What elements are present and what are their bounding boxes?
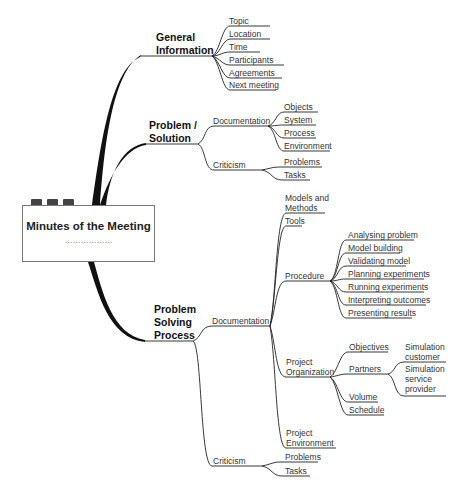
branch-label-line: Problem	[154, 303, 196, 316]
node-project-organization[interactable]: Project Organization	[286, 357, 334, 377]
node-label-line: customer	[405, 352, 445, 362]
node-label-line: Organization	[286, 367, 334, 377]
branch-label-line: Information	[156, 44, 214, 57]
node-presenting-results[interactable]: Presenting results	[348, 308, 416, 318]
node-label-line: Simulation	[405, 342, 445, 352]
node-label-line: Simulation	[405, 364, 445, 374]
node-participants[interactable]: Participants	[229, 55, 273, 65]
node-agreements[interactable]: Agreements	[229, 68, 275, 78]
node-documentation[interactable]: Documentation	[213, 116, 270, 126]
root-placeholder: ………………	[23, 236, 154, 245]
node-time[interactable]: Time	[229, 42, 248, 52]
node-project-environment[interactable]: Project Environment	[286, 428, 334, 448]
node-interpreting-outcomes[interactable]: Interpreting outcomes	[348, 295, 430, 305]
node-problems[interactable]: Problems	[285, 452, 321, 462]
node-label-line: Methods	[285, 203, 329, 213]
node-label-line: service	[405, 374, 445, 384]
node-process[interactable]: Process	[284, 128, 315, 138]
node-documentation[interactable]: Documentation	[212, 316, 269, 326]
branch-label-line: General	[156, 31, 214, 44]
node-partners[interactable]: Partners	[349, 364, 381, 374]
node-label-line: provider	[405, 384, 445, 394]
branch-label-line: Solution	[149, 132, 197, 145]
mind-map: Minutes of the Meeting ……………… General In…	[0, 0, 461, 498]
node-problems[interactable]: Problems	[284, 157, 320, 167]
root-title: Minutes of the Meeting	[23, 220, 154, 232]
node-location[interactable]: Location	[229, 29, 261, 39]
branch-label-line: Process	[154, 329, 196, 342]
node-tools[interactable]: Tools	[285, 216, 305, 226]
branch-label-line: Solving	[154, 316, 196, 329]
node-simulation-service-provider[interactable]: Simulation service provider	[405, 364, 445, 394]
node-schedule[interactable]: Schedule	[349, 405, 384, 415]
branch-problem-solving-process[interactable]: Problem Solving Process	[154, 303, 196, 342]
node-label-line: Project	[286, 428, 334, 438]
node-model-building[interactable]: Model building	[348, 243, 403, 253]
node-analysing-problem[interactable]: Analysing problem	[348, 230, 418, 240]
node-planning-experiments[interactable]: Planning experiments	[348, 269, 430, 279]
node-validating-model[interactable]: Validating model	[348, 256, 410, 266]
node-volume[interactable]: Volume	[349, 392, 377, 402]
branch-label-line: Problem /	[149, 119, 197, 132]
node-running-experiments[interactable]: Running experiments	[348, 282, 428, 292]
node-environment[interactable]: Environment	[284, 141, 332, 151]
node-procedure[interactable]: Procedure	[285, 271, 324, 281]
node-objectives[interactable]: Objectives	[349, 342, 389, 352]
branch-general-information[interactable]: General Information	[156, 31, 214, 57]
root-node[interactable]: Minutes of the Meeting ………………	[22, 205, 155, 262]
node-objects[interactable]: Objects	[284, 102, 313, 112]
node-label-line: Models and	[285, 193, 329, 203]
node-criticism[interactable]: Criticism	[213, 456, 246, 466]
node-simulation-customer[interactable]: Simulation customer	[405, 342, 445, 362]
node-tasks[interactable]: Tasks	[284, 170, 306, 180]
node-tasks[interactable]: Tasks	[285, 466, 307, 476]
node-label-line: Environment	[286, 438, 334, 448]
node-system[interactable]: System	[284, 115, 312, 125]
node-topic[interactable]: Topic	[229, 16, 249, 26]
branch-problem-solution[interactable]: Problem / Solution	[149, 119, 197, 145]
node-label-line: Project	[286, 357, 334, 367]
node-models-and-methods[interactable]: Models and Methods	[285, 193, 329, 213]
node-criticism[interactable]: Criticism	[213, 160, 246, 170]
node-next-meeting[interactable]: Next meeting	[229, 80, 279, 90]
